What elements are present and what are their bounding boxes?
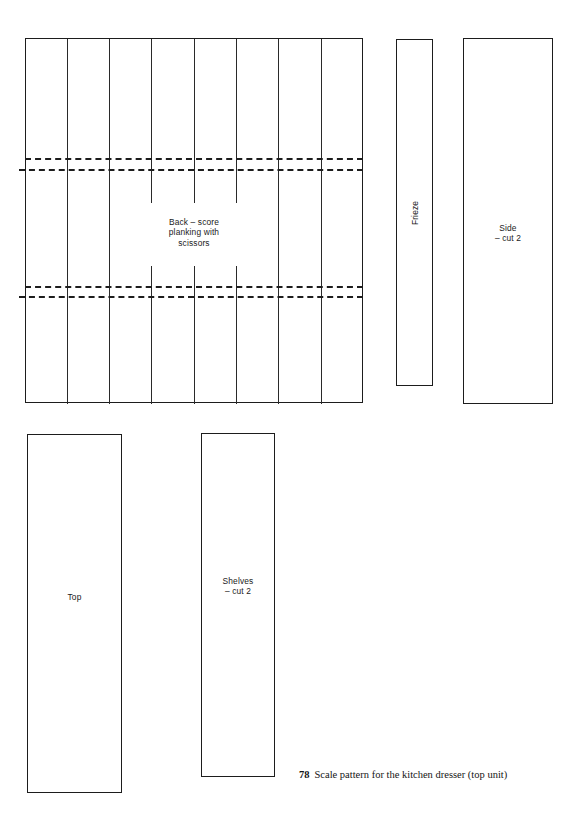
- pattern-piece-side: Side – cut 2: [463, 38, 553, 404]
- pattern-piece-frieze: Frieze: [396, 39, 433, 386]
- score-fold-line-upper-1: [25, 158, 363, 160]
- score-fold-line-lower-2: [19, 296, 363, 298]
- plank-line-7: [321, 39, 322, 404]
- score-fold-line-lower-1: [25, 286, 363, 288]
- figure-number: 78: [299, 769, 310, 780]
- figure-caption: 78Scale pattern for the kitchen dresser …: [299, 768, 551, 781]
- figure-caption-text: Scale pattern for the kitchen dresser (t…: [315, 769, 508, 780]
- pattern-label-shelves: Shelves – cut 2: [202, 576, 274, 597]
- plank-line-6: [278, 39, 279, 404]
- pattern-piece-back: Back – score planking with scissors: [25, 38, 363, 403]
- plank-line-3: [151, 39, 152, 203]
- plank-line-2: [109, 39, 110, 404]
- plank-line-4: [194, 39, 195, 203]
- pattern-piece-shelves: Shelves – cut 2: [201, 433, 275, 777]
- pattern-label-frieze: Frieze: [409, 200, 419, 224]
- score-fold-line-upper-2: [19, 169, 363, 171]
- plank-line-5: [236, 39, 237, 203]
- pattern-sheet: Back – score planking with scissors Frie…: [0, 0, 566, 819]
- plank-line-1: [67, 39, 68, 404]
- pattern-label-side: Side – cut 2: [464, 223, 552, 244]
- pattern-piece-top: Top: [27, 434, 122, 793]
- pattern-label-back: Back – score planking with scissors: [26, 217, 362, 248]
- pattern-label-top: Top: [28, 592, 121, 602]
